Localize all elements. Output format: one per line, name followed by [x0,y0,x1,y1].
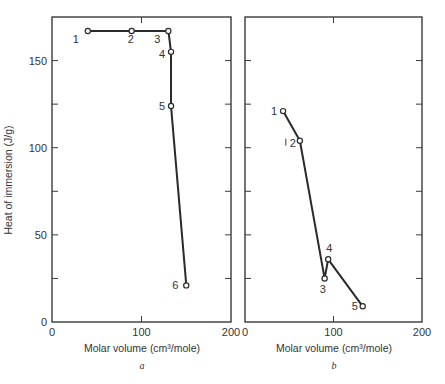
y-axis-label: Heat of immersion (J/g) [2,125,14,234]
x-tick-label: 100 [132,326,150,338]
data-point-label: 3 [154,33,160,45]
x-tick-label: 0 [242,326,248,338]
data-point-marker [280,109,285,114]
plot-frame [52,17,231,322]
y-tick-label: 150 [29,55,47,67]
data-point-label: 1 [73,33,79,45]
data-point-marker [168,103,173,108]
x-tick-label: 200 [222,326,240,338]
x-axis-label-a: Molar volume (cm³/mole) [84,342,200,354]
data-point-label: 5 [352,300,358,312]
data-point-label: 3 [320,283,326,295]
data-point-marker [166,28,171,33]
x-tick-label: 200 [413,326,431,338]
data-point-label: 6 [172,279,178,291]
x-axis-label-b: Molar volume (cm³/mole) [276,342,392,354]
data-point-marker [85,28,90,33]
data-point-marker [168,49,173,54]
data-point-label: 5 [159,100,165,112]
data-point-label: 1 [271,105,277,117]
data-point-label: 2 [128,33,134,45]
data-line [88,31,187,286]
data-point-marker [360,304,365,309]
data-point-marker [184,283,189,288]
y-tick-label: 50 [35,229,47,241]
caption-b: b [332,360,337,371]
data-point-marker [322,276,327,281]
y-tick-label: 0 [41,316,47,328]
data-point-label: 2 [290,137,296,149]
panel-b-plot: 010020012345 [242,17,431,338]
caption-a: a [140,360,145,371]
panel-a-plot: 0100200050100150123456 [29,17,241,338]
plot-frame [245,17,422,322]
data-point-label: 4 [159,48,165,60]
data-point-marker [297,138,302,143]
data-point-label: 4 [326,242,332,254]
figure: 0100200050100150123456 010020012345 Heat… [0,0,445,384]
data-point-marker [326,257,331,262]
x-tick-label: 100 [324,326,342,338]
y-tick-label: 100 [29,142,47,154]
x-tick-label: 0 [49,326,55,338]
